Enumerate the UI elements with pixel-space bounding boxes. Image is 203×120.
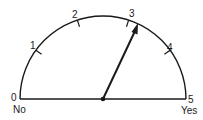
needle-arrowhead (132, 23, 139, 35)
label-no: No (13, 104, 26, 115)
tick-label-4: 4 (167, 42, 173, 53)
tick-label-5: 5 (188, 94, 194, 105)
tick-2 (77, 20, 79, 27)
tick-1 (36, 50, 42, 54)
tick-label-0: 0 (11, 92, 17, 103)
tick-label-1: 1 (30, 40, 36, 51)
tick-label-3: 3 (129, 8, 135, 19)
gauge-diagram: 0 1 2 3 4 5 No Yes (0, 0, 203, 120)
gauge-needle (103, 31, 135, 99)
pivot-dot (101, 97, 106, 102)
tick-3 (127, 20, 129, 27)
label-yes: Yes (181, 105, 197, 116)
gauge-arc (20, 16, 186, 99)
tick-label-2: 2 (72, 9, 78, 20)
